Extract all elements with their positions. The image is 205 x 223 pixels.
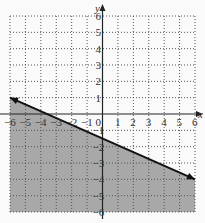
- x-tick-label: −1: [81, 116, 93, 128]
- x-axis-label: x: [197, 108, 203, 120]
- x-tick-label: −3: [50, 116, 62, 128]
- x-tick-label: 4: [161, 116, 167, 128]
- y-tick-label: −6: [93, 206, 105, 218]
- y-tick-label: 1: [96, 92, 102, 104]
- y-tick-label: −4: [93, 173, 105, 185]
- y-tick-label: −1: [93, 124, 105, 136]
- x-tick-label: −6: [4, 116, 16, 128]
- x-tick-label: 1: [115, 116, 121, 128]
- y-tick-label: −2: [93, 141, 105, 153]
- y-tick-label: −5: [93, 190, 105, 202]
- x-tick-label: −2: [66, 116, 78, 128]
- x-tick-label: 5: [177, 116, 183, 128]
- y-tick-label: 2: [96, 75, 102, 87]
- x-tick-label: −5: [19, 116, 31, 128]
- y-tick-label: −3: [93, 157, 105, 169]
- y-tick-label: 5: [96, 26, 102, 38]
- x-tick-label: −4: [35, 116, 47, 128]
- inequality-graph: −6−5−4−3−2−10123456654321−1−2−3−4−5−6 x …: [0, 0, 205, 223]
- y-tick-label: 3: [96, 59, 102, 71]
- y-tick-label: 4: [96, 43, 102, 55]
- y-axis-label: y: [94, 2, 100, 14]
- x-tick-label: 3: [146, 116, 152, 128]
- x-tick-label: 2: [130, 116, 136, 128]
